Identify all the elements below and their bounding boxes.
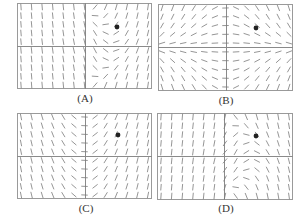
panel-label-b: (B): [206, 94, 246, 106]
initial-point-dot: [115, 25, 120, 30]
slope-segment: [161, 175, 162, 181]
slope-segment: [161, 184, 162, 190]
slope-segment: [182, 114, 183, 120]
slope-segment: [21, 21, 22, 27]
slope-segment: [21, 64, 22, 70]
initial-point-dot: [254, 26, 259, 31]
slope-segment: [31, 4, 32, 10]
slope-segment: [161, 131, 162, 137]
slope-field-panel-a: [17, 3, 152, 89]
initial-point-dot: [254, 134, 259, 139]
slope-segment: [171, 193, 172, 199]
panel-label-a: (A): [65, 92, 105, 104]
slope-segment: [171, 114, 172, 120]
panel-label-d: (D): [206, 202, 246, 214]
slope-field-panel-c: [17, 113, 152, 199]
panel-label-c: (C): [66, 202, 106, 214]
initial-point-dot: [116, 133, 121, 138]
slope-segment: [21, 12, 22, 18]
slope-segment: [21, 73, 22, 79]
slope-segment: [42, 82, 43, 88]
slope-segment: [31, 82, 32, 88]
slope-segment: [161, 123, 162, 129]
slope-segment: [31, 73, 32, 79]
slope-segment: [31, 12, 32, 18]
slope-field-panel-b: [158, 4, 293, 91]
slope-field-panel-d: [157, 113, 293, 200]
slope-segment: [171, 184, 172, 190]
slope-segment: [42, 4, 43, 10]
slope-segment: [182, 193, 183, 199]
